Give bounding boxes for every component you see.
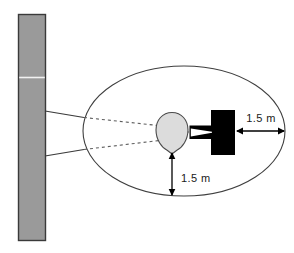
head-group <box>156 113 188 155</box>
vertical-dimension-arrow-top <box>169 152 176 159</box>
horizontal-dimension-label: 1.5 m <box>246 112 276 124</box>
sight-line-lower-solid <box>45 150 84 157</box>
horizontal-dimension-arrow-right <box>278 128 285 135</box>
head-shape <box>156 113 188 155</box>
horizontal-dimension-arrow-left <box>236 128 243 135</box>
device-body <box>211 110 235 155</box>
wall-group <box>19 15 46 241</box>
device-group <box>190 110 236 155</box>
vertical-dimension-group: 1.5 m <box>169 152 211 196</box>
horizontal-dimension-group: 1.5 m <box>236 112 285 134</box>
diagram-canvas: 1.5 m 1.5 m <box>0 0 294 253</box>
diagram-root: 1.5 m 1.5 m <box>0 0 294 253</box>
vertical-dimension-label: 1.5 m <box>181 172 211 184</box>
sight-line-upper-solid <box>45 111 84 118</box>
wall <box>19 15 46 241</box>
